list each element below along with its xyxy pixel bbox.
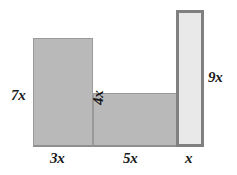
label-left-height: 7x bbox=[11, 88, 26, 103]
right-tall-rectangle bbox=[176, 10, 204, 147]
label-middle-height: 4x bbox=[91, 90, 106, 105]
label-right-height: 9x bbox=[208, 70, 223, 85]
left-tall-rectangle bbox=[33, 38, 93, 147]
label-left-width: 3x bbox=[50, 151, 65, 166]
label-middle-width: 5x bbox=[123, 151, 138, 166]
composite-rectangle-figure: 7x 4x 9x 3x 5x x bbox=[0, 0, 237, 175]
label-right-width: x bbox=[185, 151, 192, 166]
